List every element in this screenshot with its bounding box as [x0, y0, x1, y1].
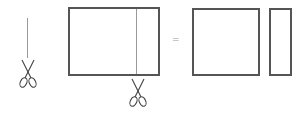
cut-guide-line	[27, 18, 28, 58]
equals-sign: =	[172, 35, 180, 44]
original-rectangle	[68, 7, 160, 76]
scissors-icon	[18, 59, 38, 89]
result-square	[192, 8, 260, 76]
result-strip	[269, 8, 292, 76]
rectangle-cut-line	[136, 9, 137, 74]
scissors-icon	[128, 78, 148, 108]
